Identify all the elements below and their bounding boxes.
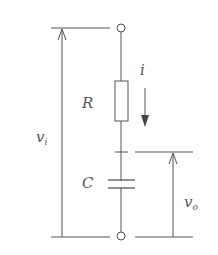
- capacitor-label: C: [82, 176, 93, 191]
- rc-circuit-diagram: [0, 0, 218, 255]
- input-voltage-label: vi: [36, 130, 47, 147]
- output-voltage-subscript: o: [192, 202, 197, 212]
- bottom-terminal: [117, 232, 125, 240]
- current-arrowhead-icon: [141, 115, 149, 127]
- current-label: i: [140, 63, 145, 78]
- output-voltage-label: vo: [184, 195, 198, 212]
- input-voltage-subscript: i: [44, 137, 47, 147]
- resistor: [115, 81, 128, 121]
- top-terminal: [117, 24, 125, 32]
- resistor-label: R: [82, 96, 93, 111]
